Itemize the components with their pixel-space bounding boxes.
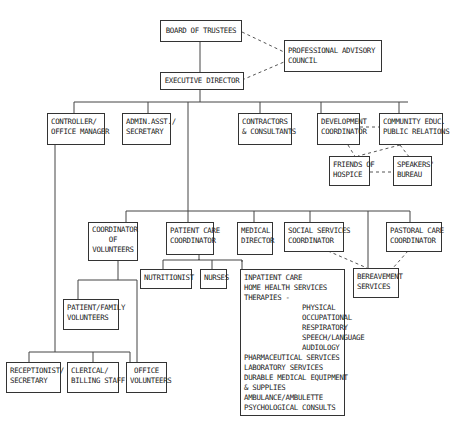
office-volunteers-box: OFFICE VOLUNTEERS [126, 362, 167, 393]
board-of-trustees-box: BOARD OF TRUSTEES [160, 20, 242, 42]
controller-office-manager-box: CONTROLLER/ OFFICE MANAGER [47, 113, 105, 145]
contractors-consultants-box: CONTRACTORS & CONSULTANTS [238, 113, 292, 145]
social-services-coordinator-box: SOCIAL SERVICES COORDINATOR [284, 222, 344, 252]
community-education-pr-box: COMMUNITY EDUC. PUBLIC RELATIONS [379, 113, 443, 145]
pastoral-care-coordinator-box: PASTORAL CARE COORDINATOR [386, 222, 442, 252]
receptionist-secretary-box: RECEPTIONIST/ SECRETARY [6, 362, 61, 393]
professional-advisory-council-box: PROFESSIONAL ADVISORY COUNCIL [284, 40, 382, 72]
executive-director-box: EXECUTIVE DIRECTOR [160, 72, 244, 90]
bereavement-services-box: BEREAVEMENT SERVICES [353, 268, 399, 298]
nutritionist-box: NUTRITIONIST [140, 269, 192, 289]
friends-of-hospice-box: FRIENDS OF HOSPICE [329, 156, 370, 186]
admin-assistant-secretary-box: ADMIN.ASST./ SECRETARY [122, 113, 171, 145]
patient-services-list-box: INPATIENT CARE HOME HEALTH SERVICES THER… [240, 269, 345, 416]
development-coordinator-box: DEVELOPMENT COORDINATOR [317, 113, 360, 145]
patient-care-coordinator-box: PATIENT CARE COORDINATOR [166, 222, 214, 255]
clerical-billing-staff-box: CLERICAL/ BILLING STAFF [67, 362, 119, 393]
nurses-box: NURSES [200, 269, 227, 289]
speakers-bureau-box: SPEAKERS' BUREAU [393, 156, 432, 186]
patient-family-volunteers-box: PATIENT/FAMILY VOLUNTEERS [63, 299, 119, 330]
coordinator-of-volunteers-box: COORDINATOR OF VOLUNTEERS [88, 222, 138, 261]
medical-director-box: MEDICAL DIRECTOR [237, 222, 273, 255]
